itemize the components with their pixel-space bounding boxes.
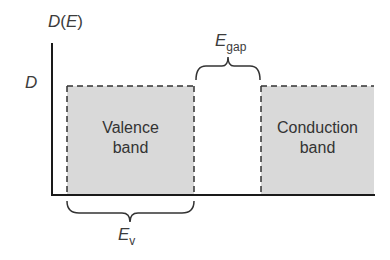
valence-width-brace — [67, 201, 194, 222]
valence-width-label: Ev — [118, 225, 135, 245]
conduction-band-label: Conduction band — [261, 118, 374, 158]
y-axis-label: D(E) — [48, 12, 83, 32]
gap-label: Egap — [215, 31, 246, 51]
valence-band-label: Valence band — [67, 118, 194, 158]
y-tick-label: D — [25, 73, 37, 93]
gap-brace — [196, 57, 260, 80]
